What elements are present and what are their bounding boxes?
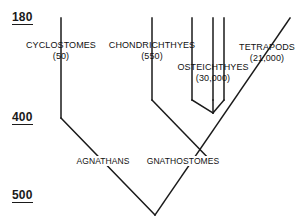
taxon-name-osteichthyes: OSTEICHTHYES bbox=[177, 62, 248, 72]
scale-tick-180: 180 bbox=[12, 11, 33, 25]
scale-tick-180-label: 180 bbox=[12, 10, 33, 24]
scale-tick-500-label: 500 bbox=[12, 188, 33, 202]
taxon-name-chondrichthyes: CHONDRICHTHYES bbox=[109, 40, 195, 50]
branch-cyclostomes-to-agnathans bbox=[61, 118, 155, 215]
branch-chondrichthyes-to-gnathostomes bbox=[152, 100, 213, 163]
node-label-agnathans: AGNATHANS bbox=[75, 156, 130, 166]
node-label-gnathostomes: GNATHOSTOMES bbox=[146, 156, 221, 166]
taxon-name-tetrapods: TETRAPODS bbox=[239, 42, 295, 52]
branch-osteichthyes-right-to-node bbox=[213, 100, 224, 113]
scale-tick-400-label: 400 bbox=[12, 110, 33, 124]
tree-branch-lines bbox=[0, 0, 302, 222]
taxon-count-chondrichthyes: (550) bbox=[109, 51, 195, 62]
taxon-label-tetrapods: TETRAPODS (21,000) bbox=[239, 42, 295, 63]
taxon-count-osteichthyes: (30,000) bbox=[177, 73, 248, 84]
taxon-count-tetrapods: (21,000) bbox=[239, 53, 295, 64]
taxon-name-cyclostomes: CYCLOSTOMES bbox=[26, 40, 96, 50]
branch-osteichthyes-left-to-node bbox=[192, 100, 213, 113]
taxon-label-osteichthyes: OSTEICHTHYES (30,000) bbox=[177, 62, 248, 83]
taxon-label-chondrichthyes: CHONDRICHTHYES (550) bbox=[109, 40, 195, 61]
scale-tick-400: 400 bbox=[12, 111, 33, 125]
cladogram-figure: 180 400 500 CYCLOSTOMES (50) CHONDRICHTH… bbox=[0, 0, 302, 222]
taxon-label-cyclostomes: CYCLOSTOMES (50) bbox=[26, 40, 96, 61]
taxon-count-cyclostomes: (50) bbox=[26, 51, 96, 62]
scale-tick-500: 500 bbox=[12, 189, 33, 203]
